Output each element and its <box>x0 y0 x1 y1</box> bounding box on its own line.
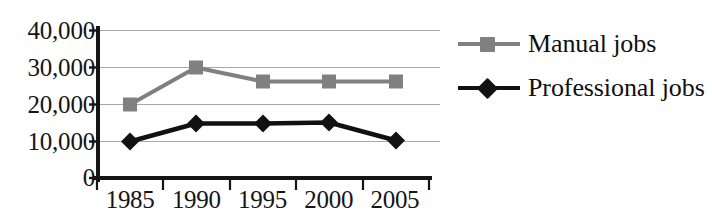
legend-swatch-professional-jobs <box>458 77 520 99</box>
legend-marker-diamond-black <box>477 78 498 99</box>
series-professional-jobs <box>121 114 405 151</box>
legend-swatch-manual-jobs <box>458 33 520 55</box>
legend-label-professional-jobs: Professional jobs <box>520 73 705 103</box>
data-point-manual-1985 <box>123 98 137 112</box>
data-point-professional-1995 <box>254 115 272 133</box>
y-tick-label-0: 0 <box>3 165 95 190</box>
data-point-professional-1990 <box>187 115 205 133</box>
data-point-manual-2005 <box>389 75 403 89</box>
data-point-professional-1985 <box>121 133 139 151</box>
legend-item-manual-jobs: Manual jobs <box>458 22 712 66</box>
y-tick-label-30000: 30,000 <box>3 55 95 80</box>
series-manual-jobs <box>123 61 403 112</box>
x-tick-label-1985: 1985 <box>97 186 163 218</box>
data-point-manual-1995 <box>256 75 270 89</box>
x-tick-label-1995: 1995 <box>229 186 295 218</box>
chart-screenshot: 40,000 30,000 20,000 10,000 0 1985 1990 … <box>0 0 712 221</box>
x-axis-labels: 1985 1990 1995 2000 2005 <box>97 186 428 218</box>
line-chart: 40,000 30,000 20,000 10,000 0 1985 1990 … <box>0 0 450 221</box>
data-point-manual-1990 <box>189 61 203 75</box>
chart-legend: Manual jobs Professional jobs <box>458 22 712 110</box>
x-tick-label-2000: 2000 <box>296 186 362 218</box>
legend-marker-square-gray <box>480 37 495 52</box>
legend-item-professional-jobs: Professional jobs <box>458 66 712 110</box>
y-tick-label-40000: 40,000 <box>3 18 95 43</box>
data-point-professional-2005 <box>387 132 405 150</box>
x-tick-label-1990: 1990 <box>163 186 229 218</box>
y-tick-label-20000: 20,000 <box>3 92 95 117</box>
data-point-professional-2000 <box>320 114 338 132</box>
data-point-manual-2000 <box>322 75 336 89</box>
legend-label-manual-jobs: Manual jobs <box>520 29 656 59</box>
y-axis-labels: 40,000 30,000 20,000 10,000 0 <box>0 0 95 221</box>
x-tick-label-2005: 2005 <box>362 186 428 218</box>
y-tick-label-10000: 10,000 <box>3 129 95 154</box>
